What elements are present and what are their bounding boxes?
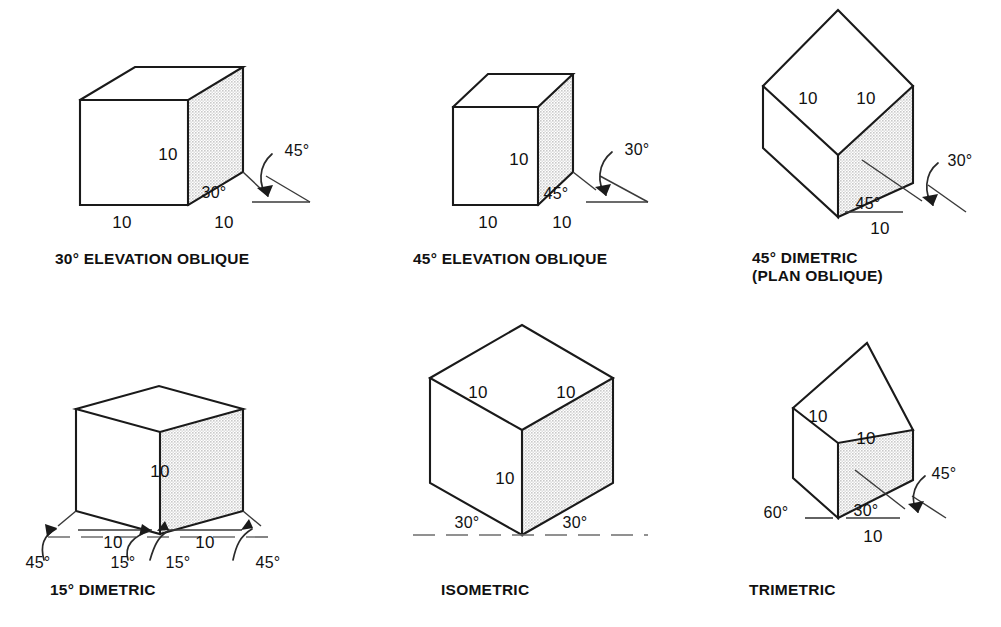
projection-diagram-board: 10 10 10 30° 45° 30° ELEVATION OBLIQUE 1… bbox=[0, 0, 1001, 627]
arrow-angle-label: 30° bbox=[947, 152, 972, 169]
receding-angle-label: 45° bbox=[543, 185, 568, 202]
figure-caption: 30° ELEVATION OBLIQUE bbox=[55, 250, 249, 267]
receding-angle-label: 45° bbox=[855, 195, 880, 212]
receding-angle-label: 30° bbox=[201, 184, 226, 201]
figure-caption-line-2: (PLAN OBLIQUE) bbox=[752, 267, 883, 284]
depth-dimension-label: 10 bbox=[552, 213, 572, 232]
arrow-angle-label: 45° bbox=[284, 142, 309, 159]
depth-dimension-label: 10 bbox=[214, 213, 234, 232]
height-dimension-label: 10 bbox=[150, 462, 170, 481]
right-dimension-label: 10 bbox=[195, 533, 215, 552]
top-left-dimension-label: 10 bbox=[808, 407, 828, 426]
figure-caption: 45° ELEVATION OBLIQUE bbox=[413, 250, 607, 267]
base-dimension-label: 10 bbox=[863, 527, 883, 546]
top-left-dimension-label: 10 bbox=[468, 383, 488, 402]
right-dimension-label: 10 bbox=[856, 89, 876, 108]
figure-caption-line-1: 45° DIMETRIC bbox=[752, 249, 858, 266]
outer-left-angle-label: 45° bbox=[25, 554, 50, 571]
base-dimension-label: 10 bbox=[870, 219, 890, 238]
inner-right-angle-label: 15° bbox=[165, 554, 190, 571]
top-right-dimension-label: 10 bbox=[556, 383, 576, 402]
figure-caption: 15° DIMETRIC bbox=[50, 581, 156, 598]
left-angle-label: 60° bbox=[763, 504, 788, 521]
left-dimension-label: 10 bbox=[798, 89, 818, 108]
inner-left-angle-label: 15° bbox=[110, 554, 135, 571]
right-angle-label: 30° bbox=[853, 502, 878, 519]
right-angle-label: 30° bbox=[562, 514, 587, 531]
left-angle-label: 30° bbox=[454, 514, 479, 531]
front-width-dimension-label: 10 bbox=[478, 213, 498, 232]
height-dimension-label: 10 bbox=[158, 145, 178, 164]
left-dimension-label: 10 bbox=[103, 533, 123, 552]
figure-caption: ISOMETRIC bbox=[441, 581, 529, 598]
arrow-angle-label: 30° bbox=[624, 141, 649, 158]
front-width-dimension-label: 10 bbox=[112, 213, 132, 232]
outer-right-angle-label: 45° bbox=[255, 554, 280, 571]
figure-caption: TRIMETRIC bbox=[749, 581, 836, 598]
height-dimension-label: 10 bbox=[509, 150, 529, 169]
height-dimension-label: 10 bbox=[495, 469, 515, 488]
arrow-angle-label: 45° bbox=[931, 465, 956, 482]
top-right-dimension-label: 10 bbox=[856, 429, 876, 448]
